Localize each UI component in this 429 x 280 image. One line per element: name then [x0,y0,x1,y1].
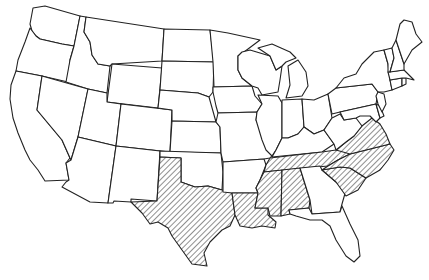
state-kansas [170,121,221,153]
state-rhode-island [402,78,406,86]
state-iowa [213,86,262,113]
us-map [0,0,429,280]
state-colorado [116,104,172,152]
state-florida [289,206,360,262]
state-wyoming [107,64,162,108]
state-new-mexico [108,146,160,203]
state-north-dakota [162,29,214,62]
state-montana [84,17,164,66]
